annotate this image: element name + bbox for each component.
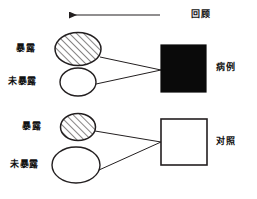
control-connectors <box>95 131 161 170</box>
case-unexposed-circle <box>60 68 96 96</box>
control-exposed-circle <box>61 114 96 141</box>
control-outcome-square <box>161 119 207 165</box>
diagram-canvas <box>0 0 257 199</box>
case-outcome-label: 病例 <box>216 63 235 72</box>
case-unexposed-label: 未暴露 <box>8 77 37 86</box>
case-connectors <box>96 57 161 84</box>
control-unexposed-circle <box>52 147 100 183</box>
case-exposed-circle <box>55 33 101 66</box>
case-exposed-label: 暴露 <box>16 44 35 53</box>
control-unexposed-label: 未暴露 <box>10 160 39 169</box>
case-control-diagram: 回顾 暴露 未暴露 病例 暴露 未暴露 对照 <box>0 0 257 199</box>
case-outcome-square <box>161 45 206 92</box>
control-exposed-label: 暴露 <box>22 122 41 131</box>
control-outcome-label: 对照 <box>216 137 235 146</box>
timeline-label: 回顾 <box>191 10 210 19</box>
